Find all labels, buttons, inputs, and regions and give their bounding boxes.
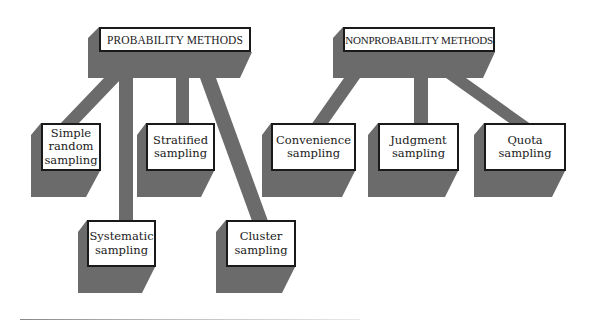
stratified-sampling-box: Stratified sampling: [146, 123, 215, 171]
probability-methods-label: PROBABILITY METHODS: [107, 34, 243, 46]
nonprobability-methods-box: NONPROBABILITY METHODS: [343, 27, 495, 52]
connector-convenience: [311, 78, 360, 125]
convenience-sampling-box: Convenience sampling: [271, 123, 356, 171]
connector-systematic: [119, 78, 133, 221]
simple-random-sampling-label: Simple random sampling: [44, 127, 97, 168]
simple-random-sampling-box: Simple random sampling: [41, 123, 101, 171]
bottom-divider: [20, 319, 360, 320]
judgment-sampling-box: Judgment sampling: [378, 123, 459, 171]
connector-quota: [446, 78, 532, 125]
quota-sampling-box: Quota sampling: [484, 123, 566, 171]
nonprobability-methods-label: NONPROBABILITY METHODS: [345, 34, 493, 46]
convenience-sampling-label: Convenience sampling: [276, 134, 351, 161]
stratified-sampling-label: Stratified sampling: [153, 134, 208, 161]
probability-methods-box: PROBABILITY METHODS: [99, 27, 251, 52]
judgment-sampling-label: Judgment sampling: [390, 134, 446, 161]
systematic-sampling-label: Systematic sampling: [89, 230, 153, 257]
connector-judgment: [414, 78, 428, 124]
cluster-sampling-label: Cluster sampling: [234, 230, 287, 257]
systematic-sampling-box: Systematic sampling: [87, 220, 156, 267]
connector-stratified: [176, 78, 189, 124]
quota-sampling-label: Quota sampling: [498, 134, 551, 161]
cluster-sampling-box: Cluster sampling: [226, 220, 296, 267]
connector-simple-random: [59, 78, 122, 125]
